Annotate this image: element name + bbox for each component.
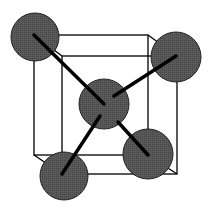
atom-sphere-corner-bottom-left: [40, 152, 88, 200]
bond-line: [34, 35, 104, 104]
bcc-unit-cell-diagram: [0, 0, 212, 213]
